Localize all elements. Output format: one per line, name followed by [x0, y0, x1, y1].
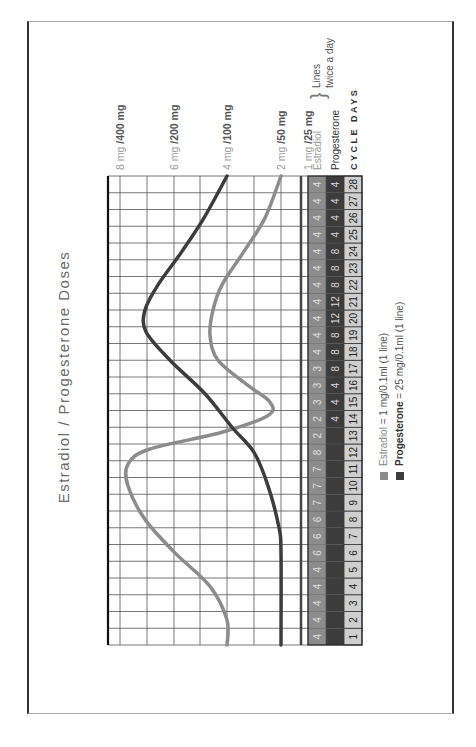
estradiol-value: 4	[312, 617, 323, 623]
chart-stage: Estradiol / Progesterone Doses 414243444…	[0, 0, 476, 747]
day-number: 20	[348, 312, 359, 324]
progesterone-cell	[326, 494, 344, 511]
estradiol-value: 4	[312, 181, 323, 187]
day-number: 19	[348, 329, 359, 341]
estradiol-value: 7	[312, 483, 323, 489]
progesterone-swatch-icon	[396, 472, 404, 480]
legend-estradiol-name: Estradiol	[378, 427, 389, 466]
day-number: 24	[348, 245, 359, 257]
progesterone-cell	[326, 545, 344, 562]
row-label-cycle-days: CYCLE DAYS	[349, 88, 359, 170]
brace-note-line1: Lines	[311, 64, 322, 88]
progesterone-value: 12	[330, 296, 341, 308]
progesterone-cell	[326, 628, 344, 645]
estradiol-value: 3	[312, 365, 323, 371]
progesterone-cell	[326, 612, 344, 629]
estradiol-swatch-icon	[380, 472, 388, 480]
estradiol-value: 4	[312, 231, 323, 237]
day-number: 10	[348, 480, 359, 492]
day-number: 11	[348, 464, 359, 475]
estradiol-value: 6	[312, 533, 323, 539]
row-label-progesterone: Progesterone	[330, 110, 341, 170]
day-number: 5	[348, 566, 359, 572]
estradiol-value: 4	[312, 315, 323, 321]
progesterone-value: 8	[330, 332, 341, 338]
axis-label: 6 mg /200 mg	[168, 105, 180, 170]
estradiol-value: 7	[312, 499, 323, 505]
day-number: 3	[348, 600, 359, 606]
estradiol-value: 4	[312, 633, 323, 639]
day-number: 2	[348, 617, 359, 623]
estradiol-value: 4	[312, 248, 323, 254]
day-number: 18	[348, 346, 359, 358]
progesterone-value: 4	[330, 231, 341, 237]
day-number: 21	[348, 296, 359, 308]
progesterone-cell	[326, 561, 344, 578]
estradiol-value: 6	[312, 516, 323, 522]
day-number: 14	[348, 413, 359, 425]
estradiol-value: 4	[312, 349, 323, 355]
progesterone-value: 4	[330, 382, 341, 388]
estradiol-value: 4	[312, 215, 323, 221]
day-number: 23	[348, 262, 359, 274]
estradiol-value: 3	[312, 382, 323, 388]
progesterone-value: 4	[330, 399, 341, 405]
day-number: 1	[348, 633, 359, 639]
axis-label: 2 mg /50 mg	[275, 110, 287, 170]
day-number: 26	[348, 212, 359, 224]
progesterone-value: 8	[330, 365, 341, 371]
progesterone-value: 4	[330, 215, 341, 221]
progesterone-cell	[326, 427, 344, 444]
progesterone-value: 12	[330, 312, 341, 324]
axis-label: 1 mg /25 mg	[302, 110, 314, 170]
axis-label: 8 mg /400 mg	[114, 105, 126, 170]
brace-note-line2: twice a day	[324, 38, 335, 88]
estradiol-value: 3	[312, 399, 323, 405]
progesterone-cell	[326, 595, 344, 612]
day-number: 22	[348, 279, 359, 291]
day-number: 27	[348, 195, 359, 207]
progesterone-value: 8	[330, 282, 341, 288]
estradiol-value: 4	[312, 265, 323, 271]
day-number: 25	[348, 229, 359, 241]
progesterone-value: 4	[330, 198, 341, 204]
estradiol-value: 4	[312, 600, 323, 606]
day-number: 13	[348, 430, 359, 442]
brace-icon: }	[307, 92, 329, 99]
day-number: 7	[348, 533, 359, 539]
progesterone-value: 4	[330, 181, 341, 187]
legend-progesterone-text: = 25 mg/0.1ml (1 line)	[394, 302, 405, 402]
day-number: 17	[348, 363, 359, 375]
progesterone-value: 8	[330, 248, 341, 254]
estradiol-value: 8	[312, 449, 323, 455]
estradiol-value: 2	[312, 432, 323, 438]
progesterone-cell	[326, 528, 344, 545]
legend-estradiol: Estradiol = 1 mg/0.1ml (1 line)	[378, 333, 389, 480]
day-number: 16	[348, 379, 359, 391]
day-number: 4	[348, 583, 359, 589]
day-number: 12	[348, 446, 359, 458]
legend-estradiol-text: = 1 mg/0.1ml (1 line)	[378, 333, 389, 427]
estradiol-value: 4	[312, 566, 323, 572]
estradiol-value: 7	[312, 466, 323, 472]
progesterone-cell	[326, 578, 344, 595]
axis-label: 4 mg /100 mg	[221, 105, 233, 170]
day-number: 28	[348, 178, 359, 190]
progesterone-cell	[326, 511, 344, 528]
day-number: 6	[348, 550, 359, 556]
legend-progesterone: Progesterone = 25 mg/0.1ml (1 line)	[394, 302, 405, 480]
progesterone-cell	[326, 461, 344, 478]
estradiol-value: 4	[312, 198, 323, 204]
progesterone-cell	[326, 444, 344, 461]
progesterone-value: 8	[330, 265, 341, 271]
estradiol-value: 2	[312, 416, 323, 422]
estradiol-value: 4	[312, 282, 323, 288]
progesterone-value: 4	[330, 416, 341, 422]
day-number: 9	[348, 499, 359, 505]
legend-progesterone-name: Progesterone	[394, 402, 405, 466]
progesterone-cell	[326, 478, 344, 495]
progesterone-value: 8	[330, 349, 341, 355]
estradiol-value: 4	[312, 332, 323, 338]
estradiol-value: 4	[312, 298, 323, 304]
estradiol-value: 6	[312, 550, 323, 556]
